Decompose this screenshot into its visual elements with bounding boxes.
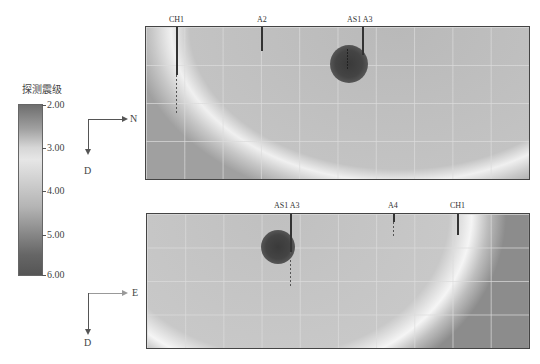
borehole-label-as1-a3: AS1 A3 <box>347 15 373 24</box>
axis-label-d: D <box>84 337 91 348</box>
borehole-ch1 <box>457 214 459 235</box>
axis-line-vertical <box>88 293 89 329</box>
axis-label-d: D <box>84 165 91 176</box>
legend-title: 探测震级 <box>22 81 62 96</box>
axis-line-horizontal <box>88 119 122 120</box>
section-panel-e-d <box>146 213 530 349</box>
borehole-ch1-extension <box>176 75 177 113</box>
colorbar <box>18 104 43 276</box>
borehole-a4-extension <box>393 222 394 236</box>
grid <box>147 214 529 348</box>
legend-tick: 3.00 <box>47 142 65 153</box>
legend-tick: 4.00 <box>47 185 65 196</box>
borehole-as1 <box>347 49 348 69</box>
legend-tick: 2.00 <box>47 99 65 110</box>
borehole-ch1 <box>176 27 178 75</box>
borehole-a3-extension <box>290 252 291 288</box>
borehole-label-a2: A2 <box>257 15 267 24</box>
arrow-down-icon <box>85 149 91 155</box>
borehole-a4 <box>393 214 395 222</box>
legend-tick: 6.00 <box>47 269 65 280</box>
borehole-label-ch1: CH1 <box>169 15 184 24</box>
borehole-a2 <box>261 27 263 51</box>
axis-line-horizontal <box>88 293 122 294</box>
axis-label-n: N <box>130 113 137 124</box>
arrow-right-icon <box>122 116 128 122</box>
borehole-label-ch1: CH1 <box>450 201 465 210</box>
arrow-down-icon <box>85 329 91 335</box>
borehole-label-as1-a3: AS1 A3 <box>274 201 300 210</box>
axis-line-vertical <box>88 119 89 149</box>
borehole-a3 <box>290 214 292 252</box>
arrow-right-icon <box>122 290 128 296</box>
axis-label-e: E <box>132 287 138 298</box>
section-panel-n-d <box>145 26 530 180</box>
borehole-a3 <box>362 27 364 55</box>
legend-tick: 5.00 <box>47 229 65 240</box>
borehole-label-a4: A4 <box>388 201 398 210</box>
